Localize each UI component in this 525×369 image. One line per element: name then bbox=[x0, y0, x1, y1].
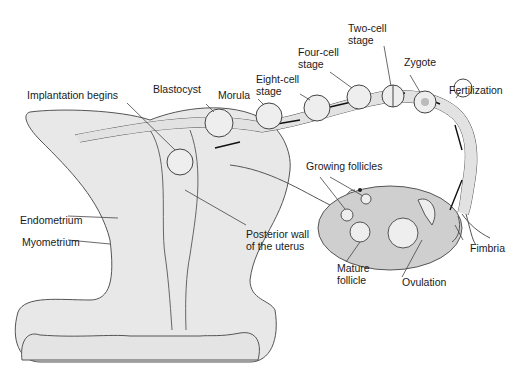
four-cell bbox=[347, 85, 371, 109]
label-endometrium: Endometrium bbox=[20, 214, 82, 226]
label-blastocyst: Blastocyst bbox=[153, 83, 201, 95]
implanting-embryo bbox=[167, 149, 193, 175]
label-mature-follicle: Mature follicle bbox=[337, 262, 370, 286]
label-fimbria: Fimbria bbox=[470, 242, 505, 254]
label-posterior-wall: Posterior wall of the uterus bbox=[246, 228, 309, 252]
diagram-artwork bbox=[0, 0, 525, 369]
label-myometrium: Myometrium bbox=[22, 236, 80, 248]
label-eight-cell-stage: Eight-cell stage bbox=[256, 73, 299, 97]
zygote-nucleus bbox=[421, 98, 429, 106]
label-growing-follicles: Growing follicles bbox=[306, 160, 382, 172]
label-two-cell-stage: Two-cell stage bbox=[348, 22, 387, 46]
label-fertilization: Fertilization bbox=[449, 84, 503, 96]
growing-follicle-dark bbox=[358, 188, 362, 192]
reproductive-tract-diagram: Implantation begins Blastocyst Morula Ei… bbox=[0, 0, 525, 369]
morula-cell bbox=[256, 103, 282, 129]
cervix-shape bbox=[22, 333, 260, 360]
label-four-cell-stage: Four-cell stage bbox=[298, 46, 339, 70]
blastocyst-cell bbox=[205, 109, 233, 137]
label-ovulation: Ovulation bbox=[402, 276, 446, 288]
label-implantation-begins: Implantation begins bbox=[27, 89, 118, 101]
ovulating-follicle bbox=[388, 218, 418, 248]
label-morula: Morula bbox=[218, 89, 250, 101]
growing-follicle-1 bbox=[341, 209, 353, 221]
label-zygote: Zygote bbox=[404, 56, 436, 68]
mature-follicle bbox=[350, 222, 370, 242]
